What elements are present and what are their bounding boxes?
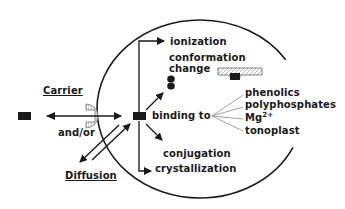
internal-solute-square bbox=[133, 112, 146, 120]
external-solute-square bbox=[18, 112, 31, 120]
conformation-label: conformation bbox=[169, 52, 246, 63]
tonoplast-transporter-icon bbox=[218, 68, 262, 80]
phenolics-label: phenolics bbox=[245, 87, 300, 98]
magnesium-label: Mg2+ bbox=[245, 112, 273, 123]
and-or-label: and/or bbox=[58, 127, 95, 138]
change-label: change bbox=[169, 63, 210, 74]
tonoplast-label: tonoplast bbox=[245, 125, 300, 136]
magnesium-symbol: Mg bbox=[245, 112, 262, 123]
conjugation-arrow bbox=[146, 124, 162, 140]
crystallization-label: crystallization bbox=[155, 163, 236, 174]
ionization-label: ionization bbox=[170, 36, 227, 47]
magnesium-charge: 2+ bbox=[262, 111, 273, 119]
crystallization-arrow bbox=[139, 121, 151, 171]
conformation-arrow bbox=[146, 93, 163, 110]
binding-fan-lines bbox=[212, 95, 243, 131]
polyphosphates-label: polyphosphates bbox=[245, 99, 336, 110]
conjugation-label: conjugation bbox=[163, 148, 231, 159]
ionization-arrow bbox=[139, 41, 164, 112]
carrier-label: Carrier bbox=[43, 85, 83, 96]
conformation-change-icon bbox=[167, 76, 175, 90]
diffusion-label: Diffusion bbox=[65, 170, 117, 181]
binding-to-label: binding to bbox=[152, 110, 211, 121]
